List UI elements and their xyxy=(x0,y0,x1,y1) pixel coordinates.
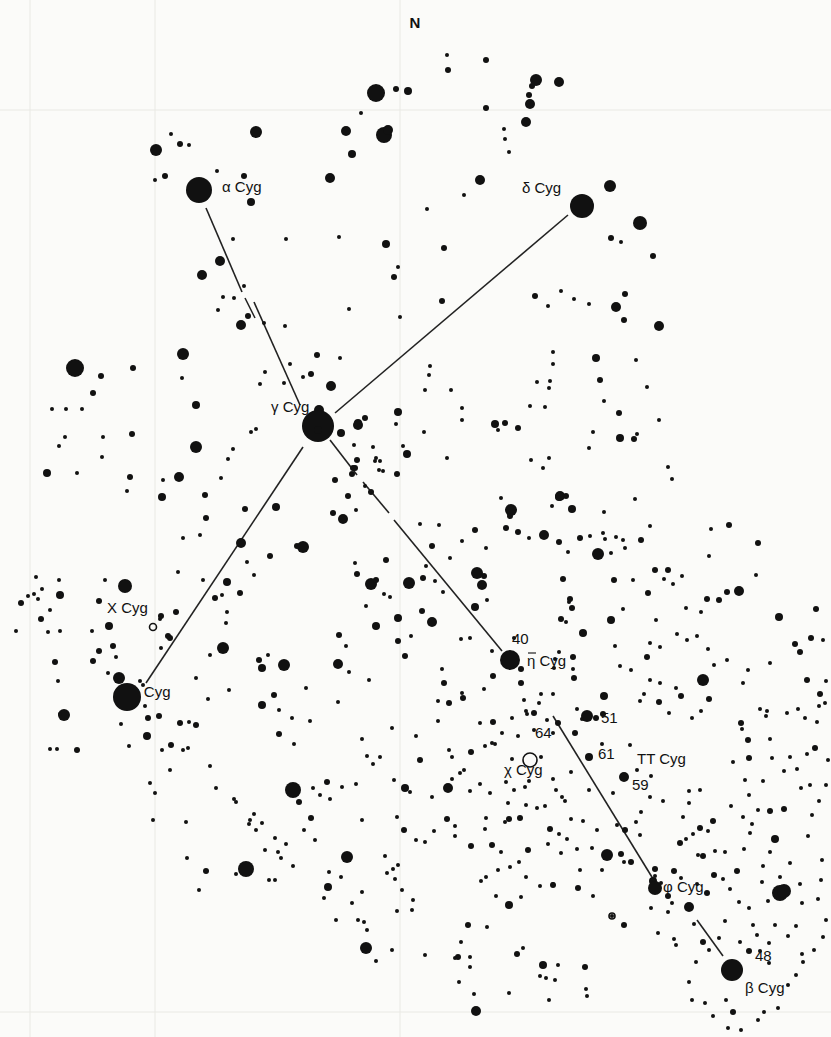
star-dot xyxy=(471,603,479,611)
star-dot xyxy=(600,692,608,700)
star-dot xyxy=(755,540,761,546)
star-dot xyxy=(652,866,658,872)
star-dot xyxy=(553,978,557,982)
star-dot xyxy=(677,840,683,846)
star-dot xyxy=(263,848,267,852)
star-dot xyxy=(581,819,585,823)
star-dot xyxy=(710,818,716,824)
star-dot xyxy=(254,828,258,832)
star-dot xyxy=(797,649,803,655)
star-dot xyxy=(381,469,385,473)
star-dot xyxy=(532,293,538,299)
star-dot xyxy=(215,256,225,266)
star-dot xyxy=(713,849,717,853)
star-dot xyxy=(618,664,622,668)
star-dot xyxy=(360,942,372,954)
star-dot xyxy=(800,901,804,905)
label-eta-cyg-number: 40 xyxy=(512,630,529,647)
star-dot xyxy=(130,365,136,371)
star-dot xyxy=(704,890,710,896)
star-dot xyxy=(767,808,773,814)
star-dot xyxy=(478,782,482,786)
star-dot xyxy=(517,815,523,821)
star-dot xyxy=(723,850,727,854)
star-dot xyxy=(481,573,487,579)
label-delta-cyg: δ Cyg xyxy=(522,179,561,196)
star-dot xyxy=(483,827,487,831)
star-dot xyxy=(401,827,407,833)
star-dot xyxy=(777,884,791,898)
star-dot xyxy=(652,567,658,573)
star-dot xyxy=(519,895,523,899)
star-dot xyxy=(227,688,231,692)
star-dot xyxy=(266,653,270,657)
star-dot xyxy=(202,492,208,498)
star-dot xyxy=(374,959,378,963)
star-dot xyxy=(796,707,800,711)
star-dot xyxy=(420,575,426,581)
star-dot xyxy=(635,768,639,772)
star-dot xyxy=(737,900,741,904)
star-dot xyxy=(232,296,236,300)
star-dot xyxy=(621,538,625,542)
star-dot xyxy=(672,937,676,941)
star-dot xyxy=(304,686,308,690)
star-dot xyxy=(584,987,588,991)
star-dot xyxy=(43,469,51,477)
star-dot xyxy=(327,870,331,874)
star-dot xyxy=(414,838,418,842)
star-dot xyxy=(484,546,488,550)
star-dot xyxy=(766,899,770,903)
star-dot xyxy=(706,829,710,833)
star-dot xyxy=(515,425,521,431)
star-dot xyxy=(408,790,412,794)
star-dot xyxy=(221,295,225,299)
star-dot xyxy=(360,890,364,894)
star-dot xyxy=(644,654,650,660)
star-dot xyxy=(648,641,652,645)
star-dot xyxy=(521,117,531,127)
star-dot xyxy=(621,317,627,323)
star-dot xyxy=(90,629,94,633)
north-indicator: N xyxy=(410,14,421,31)
star-dot xyxy=(670,477,674,481)
star-dot xyxy=(177,348,189,360)
star-dot xyxy=(201,578,205,582)
star-dot xyxy=(587,302,591,306)
star-dot xyxy=(184,820,188,824)
star-dot xyxy=(514,951,520,957)
star-dot xyxy=(465,922,471,928)
star-dot xyxy=(162,173,168,179)
star-dot xyxy=(569,605,575,611)
star-dot xyxy=(738,940,742,944)
star-dot xyxy=(754,573,758,577)
star-dot xyxy=(750,822,754,826)
star-dot xyxy=(383,854,387,858)
star-dot xyxy=(471,567,483,579)
star-dot xyxy=(775,613,783,621)
star-dot xyxy=(747,793,751,797)
star-dot xyxy=(788,861,792,865)
star-dot xyxy=(654,321,664,331)
star-dot xyxy=(556,539,562,545)
star-dot xyxy=(741,681,745,685)
star-dot xyxy=(58,629,62,633)
star-dot xyxy=(560,795,564,799)
star-dot xyxy=(245,313,251,319)
star-dot xyxy=(575,885,581,891)
star-dot xyxy=(242,284,246,288)
star-dot xyxy=(806,834,810,838)
star-dot xyxy=(572,730,578,736)
star-dot xyxy=(654,618,658,622)
star-dot xyxy=(382,240,390,248)
star-dot xyxy=(485,598,489,602)
star-dot xyxy=(260,821,264,825)
star-dot xyxy=(66,359,84,377)
star-dot xyxy=(616,434,624,442)
star-dot xyxy=(539,692,543,696)
star-dot xyxy=(234,872,238,876)
label-star-64: 64 xyxy=(535,724,552,741)
star-dot xyxy=(633,497,637,501)
star-dot xyxy=(510,716,514,720)
star-dot xyxy=(347,307,351,311)
